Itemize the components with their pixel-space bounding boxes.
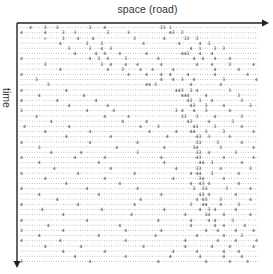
vehicle-marker: 4 xyxy=(106,67,109,72)
vehicle-marker: 3 xyxy=(193,186,196,191)
vehicle-marker: 4 xyxy=(163,160,166,165)
time-row: 4443444 xyxy=(20,212,258,217)
vehicle-marker: 3 xyxy=(249,166,252,171)
vehicle-marker: 4 xyxy=(222,254,225,259)
vehicle-marker: 4 xyxy=(154,233,157,238)
time-row: 3443434 xyxy=(20,145,258,150)
vehicle-marker: 4 xyxy=(148,129,151,134)
vehicle-marker: 4 xyxy=(97,192,100,197)
vehicle-marker: 4 xyxy=(97,160,100,165)
vehicle-marker: 4 xyxy=(166,134,169,139)
vehicle-marker: 4 xyxy=(228,108,231,113)
vehicle-marker: 4 xyxy=(145,51,148,56)
vehicle-marker: 4 xyxy=(20,56,23,61)
vehicle-marker: 4 xyxy=(178,41,181,46)
vehicle-marker: 3 xyxy=(204,108,207,113)
vehicle-marker: 4 xyxy=(216,238,219,243)
vehicle-marker: 4 xyxy=(196,62,199,67)
time-axis-arrow-icon xyxy=(14,261,21,268)
vehicle-marker: 4 xyxy=(44,129,47,134)
vehicle-marker: 4 xyxy=(213,207,216,212)
vehicle-marker: 4 xyxy=(50,119,53,124)
vehicle-marker: 4 xyxy=(56,197,59,202)
time-row: 44443343 xyxy=(20,88,258,93)
vehicle-marker: 4 xyxy=(222,103,225,108)
vehicle-marker: 3 xyxy=(157,124,160,129)
vehicle-marker: 4 xyxy=(112,108,115,113)
vehicle-marker: 4 xyxy=(59,67,62,72)
vehicle-marker: 3 xyxy=(213,124,216,129)
vehicle-marker: 4 xyxy=(103,249,106,254)
vehicle-marker: 3 xyxy=(175,108,178,113)
vehicle-marker: 3 xyxy=(219,145,222,150)
vehicle-marker: 4 xyxy=(234,238,237,243)
vehicle-marker: 4 xyxy=(124,228,127,233)
vehicle-marker: 4 xyxy=(139,67,142,72)
vehicle-marker: 4 xyxy=(65,181,68,186)
vehicle-marker: 4 xyxy=(207,181,210,186)
vehicle-marker: 4 xyxy=(59,41,62,46)
vehicle-marker: 3 xyxy=(187,36,190,41)
vehicle-marker: 4 xyxy=(252,244,255,249)
vehicle-marker: 4 xyxy=(249,197,252,202)
vehicle-marker: 4 xyxy=(204,259,207,264)
vehicle-marker: 4 xyxy=(201,56,204,61)
time-row: 33434133 xyxy=(20,46,258,51)
vehicle-marker: 4 xyxy=(240,160,243,165)
time-row: 4444344 xyxy=(20,181,258,186)
vehicle-marker: 3 xyxy=(100,62,103,67)
vehicle-marker: 4 xyxy=(20,171,23,176)
time-row: 444444334 xyxy=(20,129,258,134)
vehicle-marker: 3 xyxy=(207,41,210,46)
vehicle-marker: 4 xyxy=(136,140,139,145)
vehicle-marker: 3 xyxy=(249,103,252,108)
vehicle-marker: 3 xyxy=(222,77,225,82)
vehicle-marker: 3 xyxy=(213,46,216,51)
time-row: 4434344444 xyxy=(20,56,258,61)
vehicle-marker: 4 xyxy=(160,62,163,67)
vehicle-marker: 4 xyxy=(133,202,136,207)
vehicle-marker: 4 xyxy=(157,259,160,264)
vehicle-marker: 4 xyxy=(172,249,175,254)
time-row: 4444434 xyxy=(20,160,258,165)
vehicle-marker: 4 xyxy=(109,134,112,139)
vehicle-marker: 3 xyxy=(35,77,38,82)
vehicle-marker: 4 xyxy=(157,218,160,223)
space-axis-arrow-icon xyxy=(262,20,269,27)
vehicle-marker: 4 xyxy=(50,150,53,155)
vehicle-marker: 4 xyxy=(38,93,41,98)
vehicle-marker: 4 xyxy=(139,124,142,129)
vehicle-marker: 4 xyxy=(44,244,47,249)
vehicle-marker: 4 xyxy=(38,160,41,165)
vehicle-marker: 3 xyxy=(154,82,157,87)
vehicle-marker: 3 xyxy=(121,67,124,72)
time-row: 4443343 xyxy=(20,166,258,171)
vehicle-marker: 3 xyxy=(136,150,139,155)
vehicle-marker: 4 xyxy=(20,72,23,77)
vehicle-marker: 4 xyxy=(234,192,237,197)
vehicle-marker: 4 xyxy=(175,166,178,171)
vehicle-marker: 4 xyxy=(252,145,255,150)
vehicle-marker: 3 xyxy=(181,77,184,82)
vehicle-marker: 4 xyxy=(249,212,252,217)
vehicle-marker: 4 xyxy=(23,124,26,129)
vehicle-marker: 3 xyxy=(20,228,23,233)
time-row: 44444344 xyxy=(20,155,258,160)
vehicle-marker: 4 xyxy=(234,207,237,212)
vehicle-marker: 4 xyxy=(213,56,216,61)
vehicle-marker: 4 xyxy=(20,30,23,35)
vehicle-marker: 3 xyxy=(231,218,234,223)
vehicle-marker: 4 xyxy=(97,233,100,238)
vehicle-marker: 4 xyxy=(169,254,172,259)
vehicle-marker: 3 xyxy=(240,114,243,119)
time-row: 344444 xyxy=(20,259,258,264)
vehicle-marker: 4 xyxy=(216,228,219,233)
vehicle-marker: 4 xyxy=(68,103,71,108)
vehicle-marker: 4 xyxy=(65,88,68,93)
vehicle-marker: 4 xyxy=(219,166,222,171)
vehicle-marker: 4 xyxy=(240,124,243,129)
vehicle-marker: 3 xyxy=(207,134,210,139)
vehicle-marker: 4 xyxy=(127,114,130,119)
vehicle-marker: 4 xyxy=(222,233,225,238)
vehicle-marker: 4 xyxy=(201,160,204,165)
